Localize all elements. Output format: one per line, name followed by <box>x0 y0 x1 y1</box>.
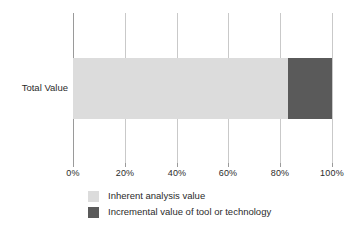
tick-label-60: 60% <box>208 168 248 179</box>
tick-mark-80 <box>280 163 281 167</box>
legend-label-inherent: Inherent analysis value <box>108 190 205 202</box>
tick-mark-60 <box>228 163 229 167</box>
legend-swatch-icon-incremental <box>88 207 99 218</box>
legend-swatch-icon-inherent <box>88 191 99 202</box>
gridline-100 <box>332 13 333 163</box>
chart-legend: Inherent analysis value Incremental valu… <box>88 189 338 221</box>
legend-item-incremental-value[interactable]: Incremental value of tool or technology <box>88 205 338 219</box>
legend-item-inherent-analysis-value[interactable]: Inherent analysis value <box>88 189 338 203</box>
category-label-total-value: Total Value <box>6 82 68 94</box>
legend-label-incremental: Incremental value of tool or technology <box>108 206 271 218</box>
tick-label-40: 40% <box>157 168 197 179</box>
tick-label-0: 0% <box>53 168 93 179</box>
tick-mark-100 <box>332 163 333 167</box>
tick-mark-0 <box>73 163 74 167</box>
bar-total-value <box>73 58 332 119</box>
tick-mark-40 <box>177 163 178 167</box>
tick-mark-20 <box>125 163 126 167</box>
bar-segment-inherent-analysis-value[interactable] <box>73 58 288 119</box>
stacked-bar-chart: Total Value 0% 20% 40% 60% 80% 100% Inhe… <box>0 0 354 238</box>
bar-segment-incremental-value[interactable] <box>288 58 332 119</box>
tick-label-80: 80% <box>260 168 300 179</box>
tick-label-20: 20% <box>105 168 145 179</box>
clipped-caption-artifact <box>0 229 354 238</box>
tick-label-100: 100% <box>312 168 352 179</box>
